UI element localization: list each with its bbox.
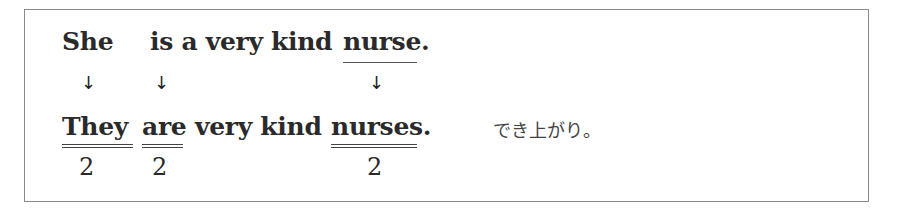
line2-noun: nurses. <box>331 114 431 139</box>
line1-rest: is a very kind <box>150 29 332 54</box>
arrow-down-icon: ↓ <box>369 74 384 92</box>
line1-subject: She <box>62 29 113 54</box>
completion-note: でき上がり。 <box>493 122 601 140</box>
line2-verb: are <box>142 114 186 139</box>
verb-double-underline <box>142 144 183 148</box>
count-label: 2 <box>79 155 94 179</box>
subject-double-underline <box>62 144 133 148</box>
arrow-down-icon: ↓ <box>81 74 96 92</box>
line2-subject: They <box>62 114 128 139</box>
count-label: 2 <box>367 155 382 179</box>
line2-middle: very kind <box>195 114 322 139</box>
noun-underline <box>343 62 417 63</box>
line1-noun: nurse. <box>343 29 429 54</box>
arrow-down-icon: ↓ <box>154 74 169 92</box>
noun-double-underline <box>331 144 417 148</box>
count-label: 2 <box>152 155 167 179</box>
